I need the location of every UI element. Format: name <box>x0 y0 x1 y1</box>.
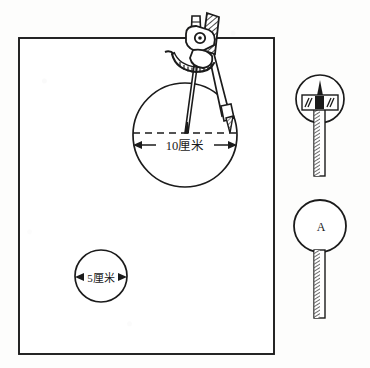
illustration-svg: 10厘米 5厘米 <box>0 0 370 368</box>
drawing-sheet-border <box>19 38 274 354</box>
compass-pivot-screw-center <box>198 36 202 40</box>
point-detail-label: A <box>317 220 326 234</box>
compass-hinge-body <box>190 50 212 68</box>
lead-tip-detail-plate-core <box>315 96 324 109</box>
point-detail-stem-hatch <box>315 250 321 318</box>
lead-tip-detail <box>296 75 344 176</box>
point-detail: A <box>294 200 346 318</box>
large-circle-dimension-label: 10厘米 <box>166 139 205 153</box>
figure-canvas: 10厘米 5厘米 <box>0 0 370 368</box>
small-circle-dimension-label: 5厘米 <box>87 272 115 284</box>
